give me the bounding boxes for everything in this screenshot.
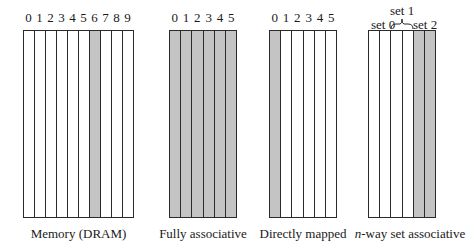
cache-line bbox=[181, 31, 192, 217]
fa-index: 4 bbox=[214, 10, 225, 26]
dm-box bbox=[269, 30, 337, 218]
fa-box bbox=[169, 30, 237, 218]
dm-index: 2 bbox=[292, 10, 303, 26]
memory-block bbox=[68, 31, 79, 217]
memory-index-row: 0 1 2 3 4 5 6 7 8 9 bbox=[23, 10, 133, 26]
memory-block bbox=[79, 31, 90, 217]
memory-block bbox=[24, 31, 35, 217]
fa-index: 2 bbox=[192, 10, 203, 26]
cache-line bbox=[215, 31, 226, 217]
cache-line bbox=[380, 31, 391, 217]
cache-line bbox=[192, 31, 203, 217]
cache-line bbox=[326, 31, 336, 217]
memory-index: 5 bbox=[78, 10, 89, 26]
cache-line bbox=[281, 31, 292, 217]
dm-index: 5 bbox=[326, 10, 337, 26]
cache-line bbox=[292, 31, 303, 217]
brace-icon bbox=[390, 16, 414, 30]
memory-index: 9 bbox=[122, 10, 133, 26]
fa-index: 0 bbox=[169, 10, 180, 26]
fa-index: 5 bbox=[226, 10, 237, 26]
fa-index: 3 bbox=[203, 10, 214, 26]
dm-index-row: 0 1 2 3 4 5 bbox=[269, 10, 337, 26]
memory-box bbox=[23, 30, 134, 218]
memory-block bbox=[101, 31, 112, 217]
fa-index-row: 0 1 2 3 4 5 bbox=[169, 10, 237, 26]
cache-line-highlighted bbox=[414, 31, 425, 217]
fa-caption: Fully associative bbox=[150, 226, 256, 242]
memory-block-highlighted bbox=[90, 31, 101, 217]
memory-block bbox=[57, 31, 68, 217]
dm-caption: Directly mapped bbox=[253, 226, 353, 242]
cache-line bbox=[315, 31, 326, 217]
cache-line bbox=[304, 31, 315, 217]
n-way-caption-rest: -way set associative bbox=[361, 226, 465, 241]
dm-index: 1 bbox=[280, 10, 291, 26]
memory-index: 1 bbox=[34, 10, 45, 26]
dm-index: 0 bbox=[269, 10, 280, 26]
cache-line bbox=[226, 31, 236, 217]
memory-index: 8 bbox=[111, 10, 122, 26]
memory-index: 0 bbox=[23, 10, 34, 26]
cache-line bbox=[391, 31, 402, 217]
memory-index: 6 bbox=[89, 10, 100, 26]
memory-caption: Memory (DRAM) bbox=[23, 226, 134, 242]
memory-block bbox=[123, 31, 133, 217]
n-way-box bbox=[368, 30, 436, 218]
cache-line bbox=[170, 31, 181, 217]
cache-line bbox=[204, 31, 215, 217]
cache-line-highlighted bbox=[270, 31, 281, 217]
memory-block bbox=[35, 31, 46, 217]
memory-index: 7 bbox=[100, 10, 111, 26]
cache-line bbox=[403, 31, 414, 217]
n-way-caption: n-way set associative bbox=[352, 226, 468, 242]
dm-index: 4 bbox=[314, 10, 325, 26]
memory-index: 4 bbox=[67, 10, 78, 26]
memory-block bbox=[112, 31, 123, 217]
cache-line-highlighted bbox=[425, 31, 435, 217]
fa-index: 1 bbox=[180, 10, 191, 26]
memory-index: 3 bbox=[56, 10, 67, 26]
cache-line bbox=[369, 31, 380, 217]
memory-index: 2 bbox=[45, 10, 56, 26]
dm-index: 3 bbox=[303, 10, 314, 26]
memory-block bbox=[46, 31, 57, 217]
